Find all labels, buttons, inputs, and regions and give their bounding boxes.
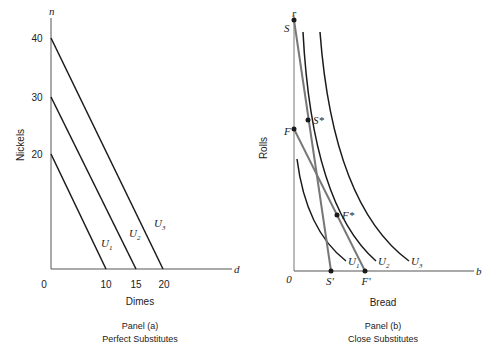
panel-b-caption-title: Panel (b) [365, 321, 402, 331]
panel-a-curve-u1 [51, 154, 106, 269]
panel-b-label-u2: U2 [378, 255, 390, 270]
panel-b-budget-line-s [294, 20, 331, 271]
panel-a-y-tick-20: 20 [31, 149, 43, 160]
panel-b-caption-subtitle: Close Substitutes [348, 334, 419, 344]
panel-a-x-var: d [234, 263, 240, 275]
panel-a-x-label: Dimes [126, 296, 154, 307]
panel-b: r b 0 S F S* F* S' F' U1 U2 U3 Rolls Bre… [258, 7, 482, 344]
panel-a-caption-subtitle: Perfect Substitutes [102, 334, 178, 344]
panel-a-x-tick-15: 15 [130, 279, 142, 290]
panel-b-x-var: b [476, 265, 482, 277]
panel-a-y-tick-40: 40 [31, 33, 43, 44]
panel-b-point-s-prime [329, 269, 334, 274]
panel-b-label-s-star: S* [313, 114, 325, 126]
panel-a-origin: 0 [41, 279, 47, 290]
panel-b-label-u3: U3 [411, 255, 423, 270]
panel-b-point-s-star [306, 118, 311, 123]
panel-b-point-s [292, 18, 297, 23]
panel-b-budget-line-f [294, 129, 365, 271]
panel-b-origin: 0 [286, 273, 292, 285]
figure: n d 40 30 20 0 10 15 20 U1 U2 U3 Nickels… [0, 0, 490, 355]
panel-a-label-u1: U1 [101, 237, 112, 252]
panel-b-x-label: Bread [370, 297, 397, 308]
panel-a-x-tick-20: 20 [158, 279, 170, 290]
panel-a-label-u2: U2 [129, 227, 141, 242]
panel-a-y-var: n [49, 5, 55, 17]
panel-a-y-label: Nickels [15, 129, 26, 161]
panel-b-label-f-prime: F' [360, 275, 371, 287]
panel-a-label-u3: U3 [154, 217, 166, 232]
panel-a: n d 40 30 20 0 10 15 20 U1 U2 U3 Nickels… [15, 5, 240, 344]
panel-b-y-var: r [292, 7, 297, 19]
panel-b-label-f: F [283, 125, 291, 137]
panel-b-point-f-prime [363, 269, 368, 274]
panel-b-label-s: S [284, 22, 290, 34]
panel-b-curve-u3 [320, 32, 409, 261]
panel-b-point-f-star [335, 213, 340, 218]
panel-b-label-f-star: F* [341, 209, 355, 221]
panel-b-point-f [292, 127, 297, 132]
panel-a-x-tick-10: 10 [100, 279, 112, 290]
panel-a-curve-u3 [51, 38, 163, 269]
panel-a-y-tick-30: 30 [31, 92, 43, 103]
panel-a-caption-title: Panel (a) [122, 321, 159, 331]
panel-b-y-label: Rolls [258, 137, 269, 159]
panel-b-label-s-prime: S' [326, 275, 335, 287]
